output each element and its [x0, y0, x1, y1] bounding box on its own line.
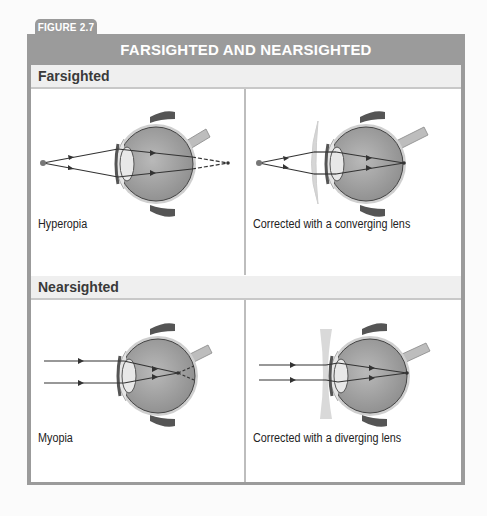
section-heading-farsighted: Farsighted [31, 65, 461, 89]
hyperopia-eye-diagram [31, 89, 244, 274]
converging-lens-eye-diagram [246, 89, 461, 274]
caption-diverging-lens: Corrected with a diverging lens [253, 431, 401, 445]
caption-myopia: Myopia [38, 431, 73, 445]
diverging-lens-eye-diagram [246, 300, 461, 482]
figure-title: FARSIGHTED AND NEARSIGHTED [27, 34, 465, 64]
caption-converging-lens: Corrected with a converging lens [253, 217, 410, 231]
myopia-eye-diagram [31, 300, 244, 482]
figure-number-tab: FIGURE 2.7 [35, 19, 97, 35]
section-heading-nearsighted: Nearsighted [31, 276, 461, 300]
diverging-lens-panel: Corrected with a diverging lens [246, 300, 461, 482]
caption-hyperopia: Hyperopia [38, 217, 87, 231]
converging-lens-panel: Corrected with a converging lens [246, 89, 461, 274]
myopia-panel: Myopia [31, 300, 244, 482]
figure-panel: FARSIGHTED AND NEARSIGHTED Farsighted [27, 34, 465, 485]
hyperopia-panel: Hyperopia [31, 89, 244, 274]
figure-body: Farsighted [31, 65, 461, 482]
